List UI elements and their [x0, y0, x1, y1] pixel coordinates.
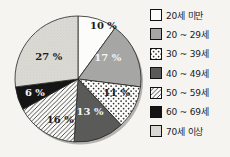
pie-slice-value-label: 11 % — [103, 87, 130, 98]
legend-swatch-icon — [150, 9, 162, 21]
legend-item-2: 30 ~ 39세 — [150, 48, 228, 60]
pie-slice-value-label: 13 % — [77, 106, 104, 117]
legend-item-5: 60 ~ 69세 — [150, 106, 228, 118]
pie-slices — [15, 16, 141, 142]
pie-slice-value-label: 17 % — [94, 52, 121, 63]
legend-swatch-icon — [150, 106, 162, 118]
pie-slice-value-label: 27 % — [35, 51, 62, 62]
legend-item-1: 20 ~ 29세 — [150, 28, 228, 40]
legend-swatch-icon — [150, 67, 162, 79]
legend-item-4: 50 ~ 59세 — [150, 87, 228, 99]
legend-label: 50 ~ 59세 — [166, 86, 209, 99]
legend-label: 70세 이상 — [166, 125, 203, 138]
legend-swatch-icon — [150, 125, 162, 137]
legend-item-6: 70세 이상 — [150, 125, 228, 137]
legend-swatch-icon — [150, 48, 162, 60]
legend-swatch-icon — [150, 28, 162, 40]
legend-label: 20 ~ 29세 — [166, 28, 209, 41]
legend-item-0: 20세 미만 — [150, 9, 228, 21]
pie-slice-value-label: 16 % — [47, 114, 74, 125]
legend-item-3: 40 ~ 49세 — [150, 67, 228, 79]
pie-slice-value-label: 10 % — [90, 20, 117, 31]
pie-chart: 10 %17 %11 %13 %16 %6 %27 % — [0, 0, 152, 157]
pie-slice-value-label: 6 % — [25, 87, 45, 98]
legend: 20세 미만20 ~ 29세30 ~ 39세40 ~ 49세50 ~ 59세60… — [150, 9, 228, 137]
pie-chart-figure: 10 %17 %11 %13 %16 %6 %27 % 20세 미만20 ~ 2… — [0, 0, 230, 157]
legend-swatch-icon — [150, 87, 162, 99]
legend-label: 40 ~ 49세 — [166, 67, 209, 80]
legend-label: 20세 미만 — [166, 9, 203, 22]
legend-label: 60 ~ 69세 — [166, 105, 209, 118]
legend-label: 30 ~ 39세 — [166, 47, 209, 60]
